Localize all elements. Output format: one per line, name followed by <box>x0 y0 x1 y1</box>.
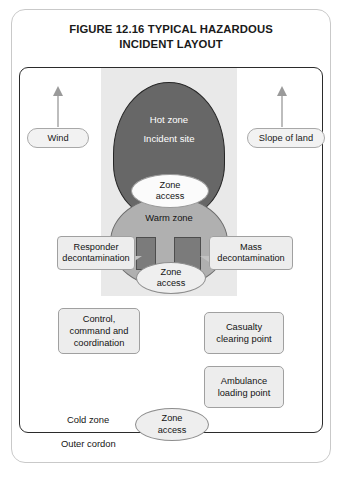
slope-arrow-up-icon <box>276 86 288 128</box>
figure-title-line-1: FIGURE 12.16 TYPICAL HAZARDOUS <box>26 22 316 37</box>
slope-of-land-label: Slope of land <box>247 128 325 148</box>
casualty-line-1: Casualty <box>226 321 262 333</box>
ambulance-loading-point-box: Ambulance loading point <box>204 366 284 408</box>
cold-zone-label: Cold zone <box>67 414 109 425</box>
outer-cordon-label: Outer cordon <box>61 438 116 449</box>
zone-access-line-2: access <box>156 191 185 203</box>
hot-zone-labels: Hot zone Incident site <box>113 110 225 148</box>
hot-zone-name: Hot zone <box>113 110 225 129</box>
casualty-line-2: clearing point <box>216 333 271 345</box>
responder-decon-line-2: decontamination <box>62 253 129 265</box>
zone-access-line-2: access <box>157 278 186 290</box>
zone-access-hot-warm: Zone access <box>131 174 209 208</box>
control-line-3: coordination <box>74 337 125 349</box>
casualty-clearing-point-box: Casualty clearing point <box>204 312 284 354</box>
control-line-1: Control, <box>83 313 116 325</box>
zone-access-line-1: Zone <box>160 180 181 192</box>
wind-arrow-up-icon <box>52 86 64 128</box>
ambulance-line-1: Ambulance <box>221 375 268 387</box>
responder-decontamination-box: Responder decontamination <box>57 236 135 270</box>
warm-zone-name: Warm zone <box>110 212 228 223</box>
zone-access-line-1: Zone <box>161 267 182 279</box>
figure-container: FIGURE 12.16 TYPICAL HAZARDOUS INCIDENT … <box>0 0 342 478</box>
zone-access-line-1: Zone <box>162 413 183 425</box>
mass-decon-line-1: Mass <box>217 242 284 254</box>
control-line-2: command and <box>70 325 129 337</box>
mass-decontamination-tail <box>200 256 209 269</box>
zone-access-warm-cold: Zone access <box>136 262 206 294</box>
figure-title-line-2: INCIDENT LAYOUT <box>26 37 316 52</box>
control-command-coordination-box: Control, command and coordination <box>58 308 140 354</box>
mass-decon-line-2: decontamination <box>217 253 284 265</box>
wind-label: Wind <box>27 128 89 148</box>
responder-decon-line-1: Responder <box>62 242 129 254</box>
zone-access-line-2: access <box>158 425 187 437</box>
incident-site-label: Incident site <box>113 129 225 148</box>
mass-decontamination-box: Mass decontamination <box>209 236 293 270</box>
figure-title: FIGURE 12.16 TYPICAL HAZARDOUS INCIDENT … <box>26 22 316 52</box>
zone-access-cold-outer: Zone access <box>135 408 209 441</box>
ambulance-line-2: loading point <box>218 387 271 399</box>
